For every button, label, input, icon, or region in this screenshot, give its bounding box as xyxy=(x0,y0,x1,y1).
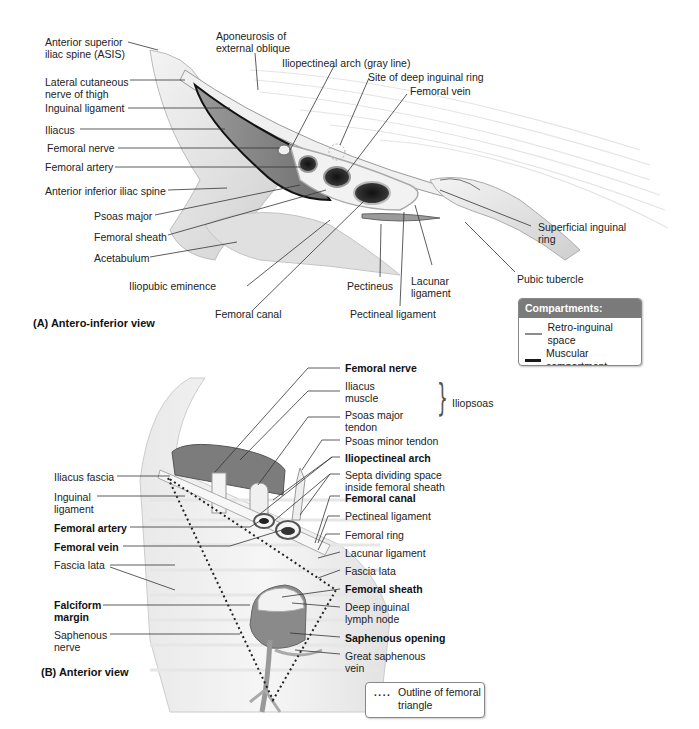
label-iliacus: Iliacus xyxy=(45,124,75,136)
label-fascia-lata-b-right: Fascia lata xyxy=(345,565,396,577)
legend-label: Outline of femoral triangle xyxy=(398,686,481,712)
label-inguinal-ligament-b: Inguinal ligament xyxy=(54,491,94,515)
label-deep-ring: Site of deep inguinal ring xyxy=(368,71,484,83)
legend-item-muscular: Muscular compartment xyxy=(519,347,641,366)
label-great-saphenous: Great saphenous vein xyxy=(345,650,426,674)
caption-panel-a: (A) Antero-inferior view xyxy=(33,317,155,329)
label-saphenous-opening: Saphenous opening xyxy=(345,632,445,644)
label-lacunar-ligament-a: Lacunar ligament xyxy=(411,275,451,299)
label-femoral-nerve-b: Femoral nerve xyxy=(345,362,417,374)
label-falciform: Falciform margin xyxy=(54,599,101,623)
dotted-line-icon: ···· xyxy=(374,690,391,701)
label-asis: Anterior superior iliac spine (ASIS) xyxy=(45,36,125,60)
label-iliopectineal-arch: Iliopectineal arch (gray line) xyxy=(282,57,410,69)
label-femoral-nerve-a: Femoral nerve xyxy=(47,142,115,154)
caption-panel-b: (B) Anterior view xyxy=(41,666,129,678)
label-fascia-lata-b-left: Fascia lata xyxy=(54,559,105,571)
label-femoral-ring: Femoral ring xyxy=(345,529,404,541)
label-pectineal-ligament-a: Pectineal ligament xyxy=(350,308,436,320)
label-femoral-canal-a: Femoral canal xyxy=(215,308,282,320)
label-pectineus: Pectineus xyxy=(347,280,393,292)
label-femoral-vein-b: Femoral vein xyxy=(54,541,119,553)
label-iliacus-muscle: Iliacus muscle xyxy=(345,380,378,404)
label-pubic-tubercle: Pubic tubercle xyxy=(517,273,584,285)
label-aponeurosis: Aponeurosis of external oblique xyxy=(216,30,290,54)
label-lat-cut-nerve: Lateral cutaneous nerve of thigh xyxy=(45,76,128,100)
label-femoral-vein-a: Femoral vein xyxy=(410,85,471,97)
femoral-triangle-legend: ···· Outline of femoral triangle xyxy=(365,682,485,718)
label-psoas-major-tendon: Psoas major tendon xyxy=(345,409,403,433)
label-aiis: Anterior inferior iliac spine xyxy=(45,185,166,197)
label-femoral-artery-b: Femoral artery xyxy=(54,522,127,534)
label-femoral-sheath-b: Femoral sheath xyxy=(345,583,423,595)
label-psoas-minor-tendon: Psoas minor tendon xyxy=(345,435,438,447)
brace-icon: } xyxy=(437,378,448,416)
label-saphenous-nerve: Saphenous nerve xyxy=(54,629,107,653)
label-iliopectineal-arch-b: Iliopectineal arch xyxy=(345,452,431,464)
label-femoral-sheath-a: Femoral sheath xyxy=(94,231,167,243)
label-septa: Septa dividing space inside femoral shea… xyxy=(345,469,445,493)
label-psoas-major: Psoas major xyxy=(94,210,152,222)
label-femoral-artery-a: Femoral artery xyxy=(45,161,113,173)
label-iliopubic-eminence: Iliopubic eminence xyxy=(129,280,216,292)
label-iliopsoas: Iliopsoas xyxy=(452,397,493,409)
label-deep-node: Deep inguinal lymph node xyxy=(345,601,409,625)
label-lacunar-ligament-b: Lacunar ligament xyxy=(345,547,426,559)
legend-title: Compartments: xyxy=(519,299,641,318)
label-acetabulum: Acetabulum xyxy=(94,252,149,264)
compartments-legend: Compartments: Retro-inguinal space Muscu… xyxy=(518,298,642,366)
label-iliacus-fascia: Iliacus fascia xyxy=(54,471,114,483)
label-femoral-canal-b: Femoral canal xyxy=(345,492,416,504)
label-superficial-ring: Superficial inguinal ring xyxy=(538,221,626,245)
black-line-swatch-icon xyxy=(525,359,541,362)
label-pectineal-ligament-b: Pectineal ligament xyxy=(345,510,431,522)
label-inguinal-ligament-a: Inguinal ligament xyxy=(45,102,124,114)
legend-item-retro-inguinal: Retro-inguinal space xyxy=(519,321,641,347)
gray-line-swatch-icon xyxy=(525,333,542,335)
